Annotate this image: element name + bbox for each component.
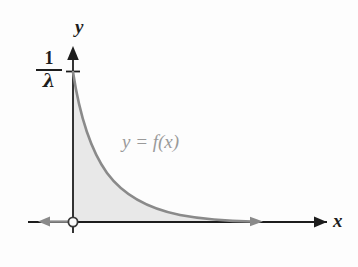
y-axis-arrowhead-icon — [67, 46, 79, 60]
y-intercept-fraction-label: 1 λ — [36, 49, 62, 91]
origin-open-circle-marker — [68, 217, 77, 226]
fraction-numerator: 1 — [36, 49, 62, 68]
curve-equation-label: y = f(x) — [122, 132, 179, 151]
x-axis-label: x — [333, 211, 343, 230]
negative-x-ray-arrowhead-icon — [38, 217, 50, 227]
x-axis-arrowhead-icon — [314, 217, 327, 228]
y-axis-label: y — [75, 17, 83, 36]
figure-container: y x y = f(x) 1 λ — [0, 0, 358, 267]
fraction-denominator: λ — [36, 72, 62, 91]
curve-arrowhead-icon — [250, 217, 263, 226]
